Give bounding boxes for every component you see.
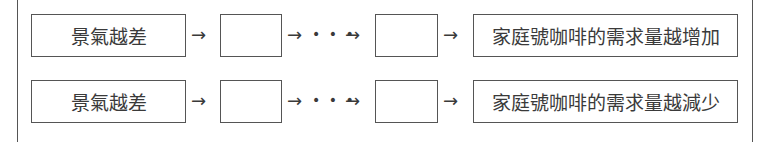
blank-answer-box[interactable] — [220, 80, 282, 123]
blank-answer-box[interactable] — [375, 80, 438, 123]
arrow-icon: → — [443, 26, 458, 44]
frame-left-border — [17, 0, 18, 142]
start-box: 景氣越差 — [31, 14, 186, 57]
arrow-icon: → — [345, 92, 360, 110]
arrow-icon: → — [345, 26, 360, 44]
arrow-icon: → — [191, 92, 206, 110]
blank-answer-box[interactable] — [375, 14, 438, 57]
arrow-icon: → — [287, 26, 302, 44]
end-box: 家庭號咖啡的需求量越減少 — [473, 80, 738, 123]
start-box: 景氣越差 — [31, 80, 186, 123]
end-box: 家庭號咖啡的需求量越增加 — [473, 14, 738, 57]
arrow-icon: → — [191, 26, 206, 44]
arrow-icon: → — [443, 92, 458, 110]
blank-answer-box[interactable] — [220, 14, 282, 57]
frame-right-border — [752, 0, 753, 142]
arrow-icon: → — [287, 92, 302, 110]
